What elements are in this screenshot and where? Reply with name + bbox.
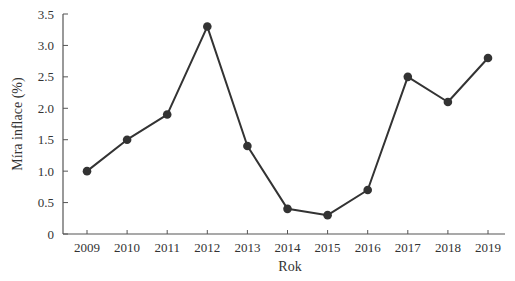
- y-tick-label: 2.5: [38, 69, 54, 84]
- x-tick-label: 2013: [234, 240, 260, 255]
- line-chart: 00.51.01.52.02.53.03.5 20092010201120122…: [0, 0, 515, 281]
- data-point-marker: [123, 135, 132, 144]
- y-tick-label: 3.0: [38, 38, 54, 53]
- data-point-marker: [243, 142, 252, 151]
- data-point-marker: [203, 22, 212, 31]
- data-point-marker: [283, 205, 292, 214]
- y-axis-title: Míra inflace (%): [10, 77, 26, 171]
- y-tick-label: 0: [48, 227, 55, 242]
- data-series: [83, 22, 493, 219]
- x-tick-label: 2010: [114, 240, 140, 255]
- x-tick-label: 2009: [74, 240, 100, 255]
- data-point-marker: [444, 98, 453, 107]
- data-point-marker: [404, 73, 413, 82]
- y-tick-label: 3.5: [38, 7, 54, 22]
- x-axis: 2009201020112012201320142015201620172018…: [63, 230, 505, 255]
- x-tick-label: 2019: [475, 240, 501, 255]
- y-axis: 00.51.01.52.02.53.03.5: [38, 7, 68, 242]
- x-tick-label: 2016: [355, 240, 382, 255]
- y-tick-label: 2.0: [38, 101, 54, 116]
- data-point-marker: [363, 186, 372, 195]
- data-point-marker: [83, 167, 92, 176]
- data-point-marker: [323, 211, 332, 220]
- x-axis-title: Rok: [278, 259, 301, 274]
- y-tick-label: 1.0: [38, 164, 54, 179]
- x-tick-label: 2018: [435, 240, 461, 255]
- x-tick-label: 2012: [194, 240, 220, 255]
- x-tick-label: 2011: [154, 240, 180, 255]
- x-tick-label: 2017: [395, 240, 422, 255]
- data-point-marker: [163, 110, 172, 119]
- x-tick-label: 2015: [315, 240, 341, 255]
- y-tick-label: 1.5: [38, 132, 54, 147]
- data-point-marker: [484, 54, 493, 63]
- y-tick-label: 0.5: [38, 195, 54, 210]
- series-line: [87, 27, 488, 216]
- x-tick-label: 2014: [275, 240, 302, 255]
